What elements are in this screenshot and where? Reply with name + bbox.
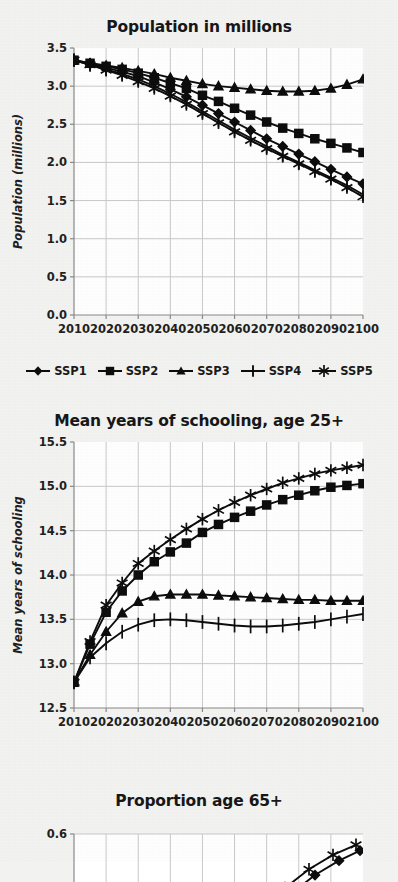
- svg-text:2010: 2010: [58, 322, 90, 336]
- svg-text:2100: 2100: [347, 322, 379, 336]
- svg-text:14.5: 14.5: [39, 524, 67, 538]
- svg-text:2080: 2080: [283, 715, 315, 729]
- asterisk-marker-icon: [311, 364, 337, 378]
- legend-label-ssp1: SSP1: [54, 364, 86, 378]
- legend-item-ssp2[interactable]: SSP2: [97, 364, 158, 378]
- population-chart-svg: 0.00.51.01.52.02.53.03.52010202020302040…: [0, 36, 398, 356]
- plus-marker-icon: [240, 364, 266, 378]
- svg-text:2.5: 2.5: [47, 117, 67, 131]
- svg-text:2060: 2060: [219, 715, 251, 729]
- svg-text:2020: 2020: [90, 322, 122, 336]
- proportion65-chart-svg: 0.6: [0, 810, 398, 882]
- schooling-chart-svg: 12.513.013.514.014.515.015.5201020202030…: [0, 430, 398, 748]
- svg-text:15.0: 15.0: [39, 479, 67, 493]
- svg-text:2040: 2040: [154, 715, 186, 729]
- chart-panel-schooling: Mean years of schooling, age 25+ 12.513.…: [0, 412, 398, 748]
- svg-text:12.5: 12.5: [39, 701, 67, 715]
- svg-text:13.0: 13.0: [39, 657, 67, 671]
- legend-item-ssp3[interactable]: SSP3: [168, 364, 229, 378]
- svg-text:14.0: 14.0: [39, 568, 67, 582]
- chart-panel-population: Population in millions 0.00.51.01.52.02.…: [0, 18, 398, 356]
- svg-text:2080: 2080: [283, 322, 315, 336]
- svg-text:0.0: 0.0: [47, 308, 67, 322]
- chart-panel-proportion65: Proportion age 65+ 0.6: [0, 792, 398, 882]
- svg-text:3.0: 3.0: [47, 79, 67, 93]
- legend-label-ssp5: SSP5: [340, 364, 372, 378]
- chart-title-schooling: Mean years of schooling, age 25+: [0, 412, 398, 430]
- svg-text:2090: 2090: [315, 322, 347, 336]
- svg-text:0.6: 0.6: [47, 827, 67, 841]
- svg-text:15.5: 15.5: [39, 435, 67, 449]
- svg-text:2020: 2020: [90, 715, 122, 729]
- svg-text:2050: 2050: [186, 715, 218, 729]
- svg-text:2040: 2040: [154, 322, 186, 336]
- svg-text:2030: 2030: [122, 322, 154, 336]
- svg-text:3.5: 3.5: [47, 41, 67, 55]
- diamond-marker-icon: [25, 364, 51, 378]
- svg-text:1.0: 1.0: [47, 232, 67, 246]
- svg-text:2010: 2010: [58, 715, 90, 729]
- legend-label-ssp3: SSP3: [197, 364, 229, 378]
- square-marker-icon: [97, 364, 123, 378]
- legend-label-ssp4: SSP4: [269, 364, 301, 378]
- svg-text:2.0: 2.0: [47, 155, 67, 169]
- svg-text:Population (millions): Population (millions): [11, 114, 25, 249]
- legend-item-ssp4[interactable]: SSP4: [240, 364, 301, 378]
- svg-text:2100: 2100: [347, 715, 379, 729]
- chart-title-proportion65: Proportion age 65+: [0, 792, 398, 810]
- chart-title-population: Population in millions: [0, 18, 398, 36]
- triangle-marker-icon: [168, 364, 194, 378]
- legend: SSP1 SSP2 SSP3 SSP4 SSP5: [0, 364, 398, 378]
- svg-text:2030: 2030: [122, 715, 154, 729]
- legend-item-ssp5[interactable]: SSP5: [311, 364, 372, 378]
- svg-text:2060: 2060: [219, 322, 251, 336]
- svg-text:2090: 2090: [315, 715, 347, 729]
- plot-area-population: 0.00.51.01.52.02.53.03.52010202020302040…: [0, 36, 398, 356]
- svg-text:2070: 2070: [251, 322, 283, 336]
- plot-area-schooling: 12.513.013.514.014.515.015.5201020202030…: [0, 430, 398, 748]
- legend-item-ssp1[interactable]: SSP1: [25, 364, 86, 378]
- svg-text:2050: 2050: [186, 322, 218, 336]
- svg-text:2070: 2070: [251, 715, 283, 729]
- plot-area-proportion65: 0.6: [0, 810, 398, 882]
- svg-text:1.5: 1.5: [47, 194, 67, 208]
- svg-text:0.5: 0.5: [47, 270, 67, 284]
- svg-text:13.5: 13.5: [39, 612, 67, 626]
- svg-text:Mean years of schooling: Mean years of schooling: [11, 496, 25, 654]
- legend-label-ssp2: SSP2: [126, 364, 158, 378]
